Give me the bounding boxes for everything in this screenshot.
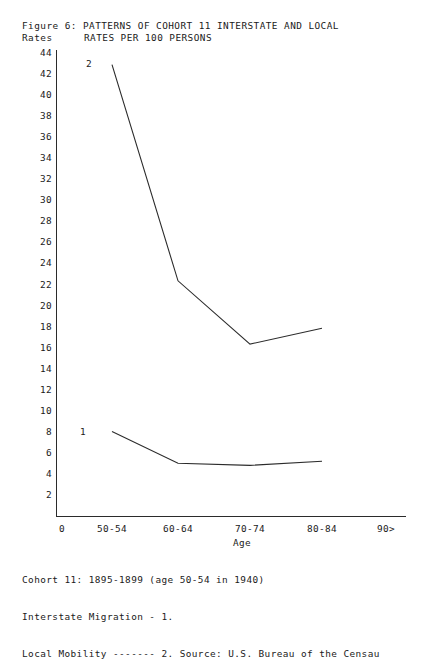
x-axis-tick-50-54: 50-54 — [97, 524, 127, 533]
y-axis-title: Rates — [22, 32, 52, 43]
series-line-interstate-migration — [112, 432, 322, 466]
x-axis-line — [56, 516, 406, 517]
footnote-local-source: Local Mobility ------- 2. Source: U.S. B… — [22, 648, 380, 660]
x-axis-tick-60-64: 60-64 — [163, 524, 193, 533]
footnote-interstate: Interstate Migration - 1. — [22, 611, 380, 623]
y-axis-tick-8: 8 — [18, 427, 52, 436]
y-axis-tick-28: 28 — [18, 216, 52, 225]
y-axis-tick-12: 12 — [18, 385, 52, 394]
y-axis-tick-44: 44 — [18, 48, 52, 57]
footnote-cohort: Cohort 11: 1895-1899 (age 50-54 in 1940) — [22, 574, 380, 586]
y-axis-line — [56, 50, 57, 516]
y-axis-tick-24: 24 — [18, 258, 52, 267]
y-axis-tick-14: 14 — [18, 364, 52, 373]
y-axis-tick-38: 38 — [18, 111, 52, 120]
x-axis-tick-0: 0 — [59, 524, 65, 533]
x-axis-tick-80-84: 80-84 — [307, 524, 337, 533]
x-axis-tick-70-74: 70-74 — [235, 524, 265, 533]
y-axis-tick-18: 18 — [18, 322, 52, 331]
figure-title: Figure 6: PATTERNS OF COHORT 11 INTERSTA… — [22, 20, 414, 70]
y-axis-tick-30: 30 — [18, 195, 52, 204]
y-axis-tick-6: 6 — [18, 448, 52, 457]
y-axis-tick-26: 26 — [18, 237, 52, 246]
y-axis-tick-2: 2 — [18, 490, 52, 499]
figure-title-line-1: Figure 6: PATTERNS OF COHORT 11 INTERSTA… — [22, 20, 339, 32]
figure-footnotes: Cohort 11: 1895-1899 (age 50-54 in 1940)… — [22, 549, 380, 663]
series-line-local-mobility — [112, 65, 322, 344]
y-axis-tick-16: 16 — [18, 343, 52, 352]
y-axis-tick-36: 36 — [18, 132, 52, 141]
figure-title-line-2: RATES PER 100 PERSONS — [84, 32, 212, 44]
x-axis-title: Age — [233, 537, 251, 548]
y-axis-tick-34: 34 — [18, 153, 52, 162]
y-axis-tick-22: 22 — [18, 280, 52, 289]
series-marker-local-mobility: 2 — [86, 59, 92, 68]
x-axis-tick-90>: 90> — [377, 524, 395, 533]
y-axis-tick-32: 32 — [18, 174, 52, 183]
y-axis-tick-40: 40 — [18, 90, 52, 99]
series-marker-interstate-migration: 1 — [80, 427, 86, 436]
y-axis-tick-20: 20 — [18, 301, 52, 310]
y-axis-tick-4: 4 — [18, 469, 52, 478]
y-axis-tick-42: 42 — [18, 69, 52, 78]
y-axis-tick-10: 10 — [18, 406, 52, 415]
